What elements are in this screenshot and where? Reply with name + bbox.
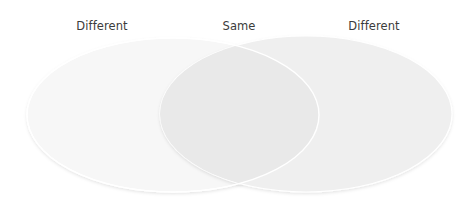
label-left-different: Different xyxy=(76,19,127,33)
label-center-same: Same xyxy=(222,19,255,33)
label-right-different: Different xyxy=(348,19,399,33)
